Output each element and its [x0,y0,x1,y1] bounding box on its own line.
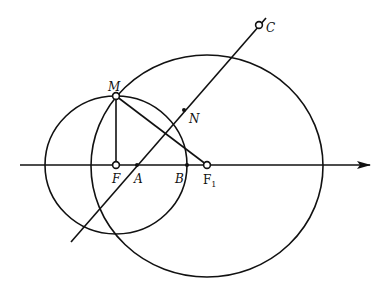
point-a-marker [135,163,139,167]
point-n-label: N [188,112,200,126]
point-c-marker [256,22,263,29]
diagram-canvas: MNCFABF1 [0,0,386,291]
point-m-label: M [107,80,121,94]
point-f1-marker [204,162,211,169]
point-a-label: A [133,172,143,186]
point-f1-label: F1 [203,173,216,189]
point-f-label: F [111,172,121,186]
segment-line-ac [71,18,266,242]
point-b-marker [185,163,189,167]
segment-mf1 [116,96,207,165]
point-f-marker [113,162,120,169]
geometry-figure: MNCFABF1 [0,0,386,291]
point-b-label: B [174,172,184,186]
point-n-marker [182,108,186,112]
point-c-label: C [266,21,275,35]
